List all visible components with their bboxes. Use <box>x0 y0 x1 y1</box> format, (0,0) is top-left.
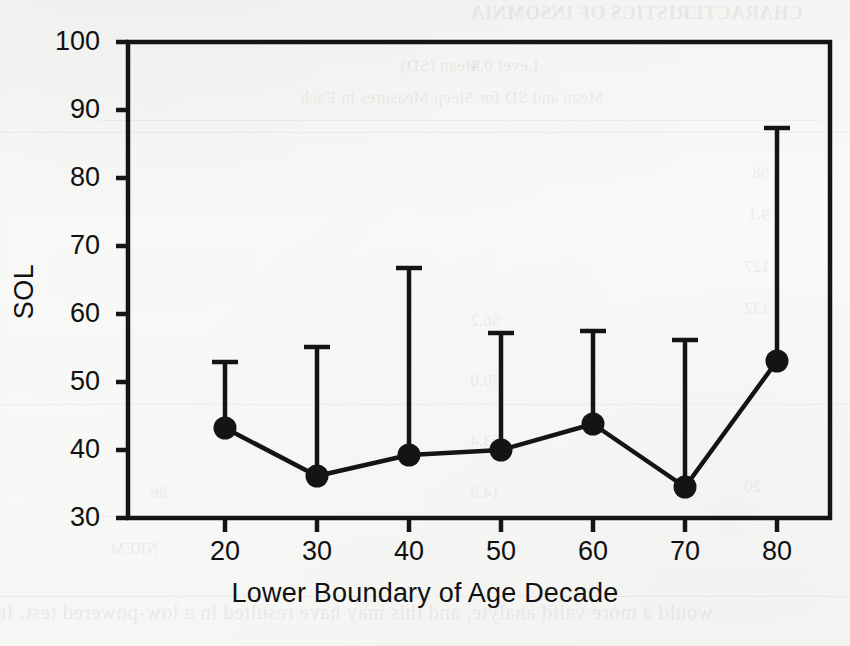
error-bar <box>580 331 606 424</box>
error-bars <box>212 128 790 487</box>
data-point <box>398 444 421 467</box>
y-tick-label-50: 50 <box>10 366 100 397</box>
y-tick-label-80: 80 <box>10 162 100 193</box>
error-bar <box>672 340 698 487</box>
error-bar <box>304 347 330 476</box>
y-tick-label-40: 40 <box>10 434 100 465</box>
data-point <box>490 439 513 462</box>
x-tick-label-60: 60 <box>553 536 633 567</box>
x-tick-label-50: 50 <box>461 536 541 567</box>
x-tick-label-70: 70 <box>645 536 725 567</box>
x-tick-label-20: 20 <box>185 536 265 567</box>
data-point <box>674 476 697 499</box>
data-point <box>214 417 237 440</box>
error-bar <box>764 128 790 361</box>
x-tick-label-40: 40 <box>369 536 449 567</box>
data-point <box>766 350 789 373</box>
x-axis-title: Lower Boundary of Age Decade <box>0 578 850 609</box>
y-axis-title: SOL <box>9 232 40 352</box>
y-tick-label-90: 90 <box>10 94 100 125</box>
x-tick-label-80: 80 <box>737 536 817 567</box>
data-point <box>582 413 605 436</box>
error-bar <box>488 333 514 450</box>
y-tick-label-100: 100 <box>10 26 100 57</box>
y-tick-label-30: 30 <box>10 502 100 533</box>
data-point <box>306 465 329 488</box>
x-tick-label-30: 30 <box>277 536 357 567</box>
error-bar <box>396 268 422 455</box>
plot-frame <box>128 42 830 518</box>
chart-page: CHARACTERISTICS OF INSOMNIA Mean (SD) Le… <box>0 0 850 646</box>
